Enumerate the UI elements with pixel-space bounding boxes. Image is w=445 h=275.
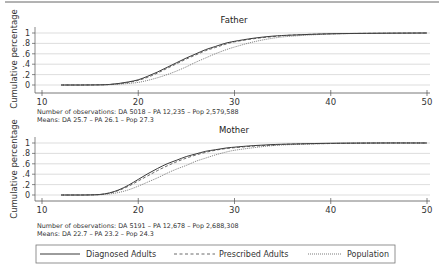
means-note: Means: DA 25.7 – PA 26.1 – Pop 27.3 <box>37 116 154 124</box>
x-tick-label: 20 <box>133 205 144 215</box>
y-ticks: 0.2.4.6.81 <box>22 27 35 93</box>
gridlines <box>35 33 430 85</box>
panel-mother: Mother Cumulative percentage 0.2.4.6.81 … <box>9 119 432 238</box>
y-tick-label: .6 <box>22 50 30 59</box>
y-ticks: 0.2.4.6.81 <box>22 137 35 201</box>
x-axis: 1020304050 <box>35 198 432 215</box>
y-tick-label: .8 <box>22 149 30 158</box>
x-tick-label: 10 <box>37 205 48 215</box>
gridlines <box>35 143 430 195</box>
x-tick-label: 50 <box>422 205 433 215</box>
series-line-population <box>61 143 427 195</box>
y-tick-label: .6 <box>22 160 30 169</box>
legend-label-prescribed: Prescribed Adults <box>219 250 288 259</box>
panel-title: Mother <box>219 125 249 135</box>
series-line-diagnosed-adults <box>61 143 427 195</box>
y-tick-label: .4 <box>22 60 30 69</box>
y-tick-label: 1 <box>25 29 30 38</box>
series-lines <box>61 33 427 85</box>
legend-label-population: Population <box>347 250 389 259</box>
observations-note: Number of observations: DA 5018 – PA 12,… <box>37 108 239 116</box>
y-tick-label: .8 <box>22 39 30 48</box>
y-tick-label: .2 <box>22 181 30 190</box>
x-tick-label: 10 <box>37 97 48 107</box>
chart-figure: Father Cumulative percentage 0.2.4.6.81 … <box>0 0 445 275</box>
means-note: Means: DA 22.7 – PA 23.2 – Pop 24.3 <box>37 230 154 238</box>
observations-note: Number of observations: DA 5191 – PA 12,… <box>37 222 239 230</box>
legend-label-diagnosed: Diagnosed Adults <box>86 250 156 259</box>
x-axis: 1020304050 <box>35 90 432 107</box>
y-tick-label: .2 <box>22 71 30 80</box>
y-tick-label: 0 <box>25 81 30 90</box>
series-lines <box>61 143 427 195</box>
series-line-diagnosed-adults <box>61 33 427 85</box>
x-tick-label: 30 <box>229 97 240 107</box>
y-tick-label: 1 <box>25 139 30 148</box>
x-tick-label: 30 <box>229 205 240 215</box>
x-tick-label: 40 <box>325 97 336 107</box>
panel-father: Father Cumulative percentage 0.2.4.6.81 … <box>9 9 432 124</box>
x-tick-label: 40 <box>325 205 336 215</box>
y-axis-label: Cumulative percentage <box>9 119 19 219</box>
series-line-prescribed-adults <box>61 143 427 195</box>
x-tick-label: 50 <box>422 97 433 107</box>
series-line-population <box>61 33 427 85</box>
panel-title: Father <box>221 15 248 25</box>
legend: Diagnosed Adults Prescribed Adults Popul… <box>36 245 395 263</box>
x-tick-label: 20 <box>133 97 144 107</box>
y-axis-label: Cumulative percentage <box>9 9 19 109</box>
y-tick-label: 0 <box>25 191 30 200</box>
series-line-prescribed-adults <box>61 33 427 85</box>
y-tick-label: .4 <box>22 170 30 179</box>
